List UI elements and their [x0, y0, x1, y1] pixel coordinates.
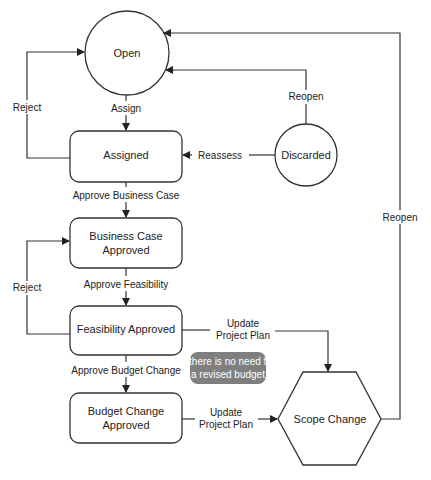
edge-assign-label: Assign	[111, 103, 141, 114]
edge-approve-business-case: Approve Business Case	[73, 182, 180, 217]
node-budget-change-approved: Budget Change Approved	[70, 393, 182, 443]
node-business-case-line1: Business Case	[89, 230, 162, 242]
edge-update-plan-1-line2: Project Plan	[216, 330, 270, 341]
node-budget-change-line1: Budget Change	[88, 405, 164, 417]
edge-reject-mid-label: Reject	[13, 282, 42, 293]
node-feasibility-label: Feasibility Approved	[77, 323, 175, 335]
edge-approve-feasibility-label: Approve Feasibility	[84, 279, 168, 290]
node-discarded-label: Discarded	[281, 149, 331, 161]
node-business-case-approved: Business Case Approved	[70, 218, 182, 268]
node-business-case-line2: Approved	[102, 244, 149, 256]
node-scope-change-label: Scope Change	[294, 413, 367, 425]
note-line2: a revised budget	[191, 369, 265, 380]
node-assigned: Assigned	[70, 131, 182, 182]
note-line1: If there is no need for	[181, 356, 276, 367]
edge-assign: Assign	[111, 95, 141, 130]
edge-update-plan-1-line1: Update	[227, 318, 260, 329]
node-feasibility-approved: Feasibility Approved	[70, 306, 182, 355]
edge-reopen-discarded: Reopen	[166, 70, 324, 124]
node-open: Open	[85, 11, 169, 95]
note-no-revised-budget: If there is no need for a revised budget	[181, 352, 276, 384]
node-assigned-label: Assigned	[103, 149, 148, 161]
edge-approve-feasibility: Approve Feasibility	[84, 268, 168, 305]
node-budget-change-line2: Approved	[102, 419, 149, 431]
edge-update-plan-2-line1: Update	[210, 407, 243, 418]
edge-reject-top-label: Reject	[13, 102, 42, 113]
node-discarded: Discarded	[275, 124, 337, 186]
edge-reassess: Reassess	[183, 150, 275, 161]
node-open-label: Open	[114, 47, 141, 59]
edge-reopen-discarded-label: Reopen	[288, 91, 323, 102]
edge-update-plan-budget: Update Project Plan	[182, 407, 277, 430]
edge-reopen-scope-label: Reopen	[382, 212, 417, 223]
edge-reject-mid: Reject	[13, 241, 70, 334]
edge-reassess-label: Reassess	[198, 150, 242, 161]
edge-update-plan-2-line2: Project Plan	[199, 419, 253, 430]
edge-approve-budget-change-label: Approve Budget Change	[71, 365, 181, 376]
edge-approve-business-case-label: Approve Business Case	[73, 190, 180, 201]
edge-approve-budget-change: Approve Budget Change	[71, 355, 181, 392]
diagram-canvas: Open Discarded Assigned Business Case Ap…	[0, 0, 431, 480]
node-scope-change: Scope Change	[278, 372, 381, 465]
